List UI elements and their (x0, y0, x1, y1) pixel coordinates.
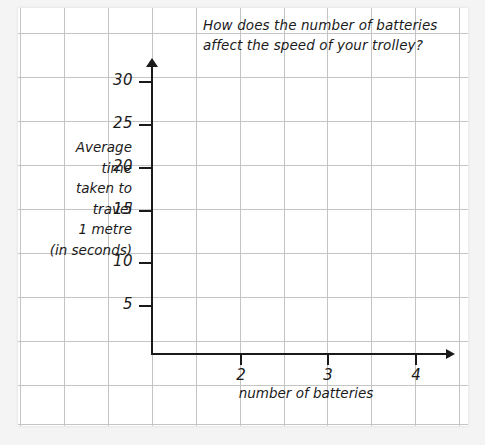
y-axis-title-line-4: travel (16, 199, 132, 220)
x-axis-line (151, 353, 448, 355)
y-axis-tick-label: 25 (97, 114, 133, 132)
y-axis-arrow-icon (146, 58, 158, 67)
y-axis-tick-mark (139, 210, 152, 212)
x-axis-tick-mark (240, 353, 242, 365)
y-axis-title-line-1: Average (16, 137, 132, 158)
chart-title: How does the number of batteries affect … (203, 15, 468, 55)
x-axis-tick-label: 2 (226, 366, 256, 384)
y-axis-tick-label: 30 (97, 71, 133, 89)
y-axis-title: Average time taken to travel 1 metre (in… (16, 137, 132, 260)
y-axis-tick-mark (139, 124, 152, 126)
y-axis-title-line-5: 1 metre (16, 219, 132, 240)
x-axis-tick-label: 4 (401, 366, 431, 384)
x-axis-tick-mark (415, 353, 417, 365)
x-axis-arrow-icon (446, 349, 455, 359)
y-axis-tick-mark (139, 81, 152, 83)
y-axis-title-line-3: taken to (16, 178, 132, 199)
y-axis-tick-label: 5 (97, 295, 133, 313)
y-axis-title-line-2: time (16, 158, 132, 179)
chart-page: 30252015105234 How does the number of ba… (0, 0, 485, 445)
x-axis-tick-mark (327, 353, 329, 365)
y-axis-tick-mark (139, 262, 152, 264)
chart-title-line-1: How does the number of batteries (203, 15, 468, 35)
y-axis-tick-mark (139, 305, 152, 307)
x-axis-tick-label: 3 (313, 366, 343, 384)
plot-area: 30252015105234 How does the number of ba… (0, 0, 485, 445)
y-axis-tick-mark (139, 167, 152, 169)
y-axis-title-line-6: (in seconds) (16, 240, 132, 261)
x-axis-title: number of batteries (196, 385, 416, 401)
chart-title-line-2: affect the speed of your trolley? (203, 35, 468, 55)
